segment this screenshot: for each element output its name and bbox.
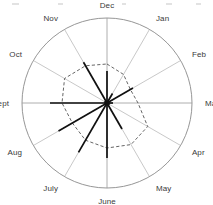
month-label-nov: Nov [43,14,58,23]
month-label-june: June [98,197,116,205]
month-label-aug: Aug [8,148,23,157]
month-label-may: May [156,184,171,193]
month-label-feb: Feb [192,50,207,59]
month-label-july: July [43,184,58,193]
polar-chart-svg: DecJanFebMarAprMayJuneJulyAugSeptOctNov [0,0,213,205]
month-label-apr: Apr [192,148,205,157]
month-label-mar: Mar [205,99,213,108]
polar-chart-container: DecJanFebMarAprMayJuneJulyAugSeptOctNov [0,0,213,205]
month-label-oct: Oct [9,50,22,59]
month-label-dec: Dec [100,1,115,10]
center-origin-dot [104,100,109,105]
month-label-sept: Sept [0,99,10,108]
month-label-jan: Jan [156,14,169,23]
